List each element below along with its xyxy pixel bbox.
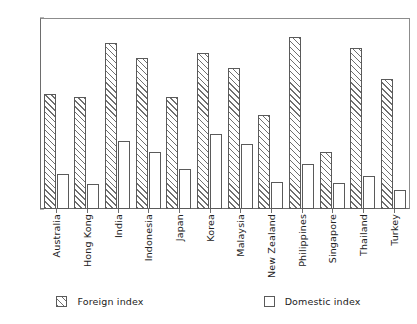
bar-domestic: [118, 141, 130, 209]
x-axis-label-slot: Malaysia: [228, 214, 253, 284]
bar-foreign: [258, 115, 270, 209]
bar-group: [74, 18, 99, 209]
x-axis-label-slot: Australia: [44, 214, 69, 284]
legend-label-domestic-index: Domestic index: [285, 296, 361, 307]
x-axis-labels: AustraliaHong KongIndiaIndonesiaJapanKor…: [41, 214, 409, 284]
bar-domestic: [363, 176, 375, 209]
legend-item-domestic-index: Domestic index: [264, 296, 361, 307]
x-axis-tick-mark: [56, 209, 57, 213]
legend-swatch-open-icon: [264, 296, 275, 307]
y-axis: 0.70.60.50.40.30.20.10: [0, 0, 40, 212]
bar-group: [320, 18, 345, 209]
bar-foreign: [74, 97, 86, 209]
bar-domestic: [302, 164, 314, 209]
x-axis-tick-mark: [210, 209, 211, 213]
x-axis-tick-mark: [271, 209, 272, 213]
bar-group: [105, 18, 130, 209]
x-axis-category-label: Japan: [173, 214, 184, 241]
bar-group: [381, 18, 406, 209]
bar-group: [166, 18, 191, 209]
x-axis-tick-mark: [302, 209, 303, 213]
x-axis-category-label: Korea: [204, 214, 215, 242]
bar-group: [258, 18, 283, 209]
bar-group: [350, 18, 375, 209]
bar-foreign: [228, 68, 240, 209]
x-axis-tick-mark: [148, 209, 149, 213]
x-axis-category-label: Thailand: [357, 214, 368, 256]
bar-chart-figure: 0.70.60.50.40.30.20.10 AustraliaHong Kon…: [0, 0, 417, 324]
bar-domestic: [271, 182, 283, 209]
bar-group: [197, 18, 222, 209]
bar-domestic: [149, 152, 161, 209]
bar-foreign: [166, 97, 178, 209]
bar-foreign: [105, 43, 117, 209]
x-axis-label-slot: New Zealand: [258, 214, 283, 284]
x-axis-category-label: India: [112, 214, 123, 238]
legend-swatch-hatched-icon: [56, 296, 67, 307]
bar-foreign: [350, 48, 362, 209]
bar-domestic: [179, 169, 191, 209]
x-axis-label-slot: Indonesia: [136, 214, 161, 284]
x-axis-label-slot: Philippines: [289, 214, 314, 284]
legend-item-foreign-index: Foreign index: [56, 296, 143, 307]
bar-group: [44, 18, 69, 209]
bar-foreign: [289, 37, 301, 209]
x-axis-label-slot: Singapore: [320, 214, 345, 284]
x-axis-label-slot: Korea: [197, 214, 222, 284]
x-axis-tick-mark: [87, 209, 88, 213]
legend-label-foreign-index: Foreign index: [77, 296, 143, 307]
x-axis-category-label: Turkey: [388, 214, 399, 246]
bar-group: [289, 18, 314, 209]
x-axis-tick-mark: [332, 209, 333, 213]
bar-domestic: [394, 190, 406, 209]
bar-foreign: [136, 58, 148, 209]
x-axis-tick-mark: [179, 209, 180, 213]
x-axis-label-slot: Japan: [166, 214, 191, 284]
bar-domestic: [57, 174, 69, 209]
x-axis-category-label: Australia: [51, 214, 62, 257]
x-axis-tick-mark: [118, 209, 119, 213]
x-axis-label-slot: Hong Kong: [74, 214, 99, 284]
x-axis-category-label: Hong Kong: [81, 214, 92, 267]
bar-group: [228, 18, 253, 209]
bar-domestic: [333, 183, 345, 209]
bar-foreign: [44, 94, 56, 209]
x-axis-label-slot: India: [105, 214, 130, 284]
bar-domestic: [241, 144, 253, 209]
x-axis-category-label: Indonesia: [143, 214, 154, 261]
x-axis-category-label: Malaysia: [235, 214, 246, 257]
x-axis-tick-mark: [240, 209, 241, 213]
bar-group: [136, 18, 161, 209]
bar-domestic: [87, 184, 99, 209]
x-axis-category-label: New Zealand: [265, 214, 276, 278]
bar-foreign: [381, 79, 393, 209]
x-axis-label-slot: Thailand: [350, 214, 375, 284]
x-axis-tick-mark: [394, 209, 395, 213]
bar-foreign: [320, 152, 332, 209]
bar-foreign: [197, 53, 209, 209]
x-axis-category-label: Philippines: [296, 214, 307, 267]
x-axis-tick-mark: [363, 209, 364, 213]
bar-domestic: [210, 134, 222, 209]
x-axis-label-slot: Turkey: [381, 214, 406, 284]
x-axis-category-label: Singapore: [327, 214, 338, 263]
chart-legend: Foreign index Domestic index: [0, 290, 417, 312]
bar-series-container: [41, 18, 409, 209]
